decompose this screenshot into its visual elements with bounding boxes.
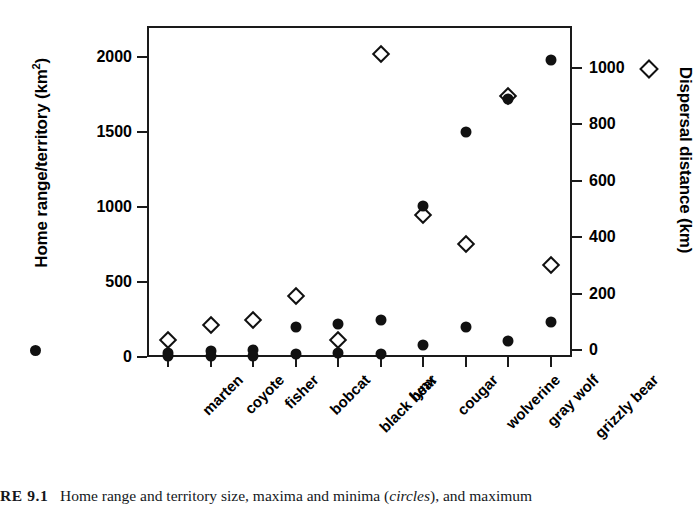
- y-axis-right-tick-label: 0: [589, 342, 659, 358]
- figure-caption: RE 9.1 Home range and territory size, ma…: [0, 487, 696, 505]
- data-point-circle-marten: [163, 351, 174, 362]
- y-axis-left-title-superscript: 2: [30, 63, 42, 69]
- y-axis-right-tick-label: 400: [589, 229, 659, 245]
- y-axis-left-tick-label: 0: [62, 349, 132, 365]
- data-point-circle-bobcat: [290, 322, 301, 333]
- y-axis-left-tick-label: 2000: [62, 49, 132, 65]
- data-point-circle-black-bear: [333, 319, 344, 330]
- x-axis-category-label-marten: marten: [199, 371, 246, 418]
- data-point-circle-gray-wolf: [503, 335, 514, 346]
- data-point-circle-lynx: [375, 349, 386, 360]
- x-axis-tick-mark: [550, 357, 552, 367]
- legend-circle-marker-icon: [30, 345, 41, 356]
- y-axis-right-tick-label: 600: [589, 173, 659, 189]
- y-axis-right-tick-mark: [572, 293, 582, 295]
- y-axis-right-tick-mark: [572, 180, 582, 182]
- data-point-circle-lynx: [375, 314, 386, 325]
- data-point-circle-wolverine: [460, 127, 471, 138]
- y-axis-left-tick-mark: [137, 131, 147, 133]
- figure-caption-text-part2: ), and maximum: [430, 487, 532, 504]
- data-point-circle-fisher: [248, 350, 259, 361]
- figure-caption-label: RE 9.1: [0, 487, 48, 504]
- plot-area: [147, 26, 572, 357]
- data-point-circle-wolverine: [460, 322, 471, 333]
- data-point-circle-grizzly-bear: [545, 55, 556, 66]
- y-axis-left-tick-label: 500: [62, 274, 132, 290]
- figure-caption-text-part1: Home range and territory size, maxima an…: [60, 487, 389, 504]
- y-axis-left-tick-mark: [137, 356, 147, 358]
- y-axis-right-tick-mark: [572, 67, 582, 69]
- y-axis-left-title: Home range/territory (km2): [30, 38, 52, 288]
- y-axis-left-tick-mark: [137, 206, 147, 208]
- data-point-circle-grizzly-bear: [545, 316, 556, 327]
- x-axis-tick-mark: [507, 357, 509, 367]
- y-axis-left-tick-label: 1000: [62, 199, 132, 215]
- x-axis-tick-mark: [465, 357, 467, 367]
- y-axis-right-tick-mark: [572, 236, 582, 238]
- figure-panel: Home range/territory (km2) Dispersal dis…: [0, 0, 696, 510]
- x-axis-category-label-bobcat: bobcat: [326, 371, 373, 418]
- y-axis-left-title-tail: ): [32, 58, 51, 63]
- y-axis-right-tick-mark: [572, 349, 582, 351]
- data-point-circle-cougar: [418, 340, 429, 351]
- data-point-circle-bobcat: [290, 349, 301, 360]
- x-axis-tick-mark: [422, 357, 424, 367]
- x-axis-category-label-fisher: fisher: [281, 371, 322, 412]
- y-axis-left-tick-mark: [137, 281, 147, 283]
- y-axis-left-tick-mark: [137, 56, 147, 58]
- y-axis-left-tick-label: 1500: [62, 124, 132, 140]
- y-axis-right-tick-label: 1000: [589, 60, 659, 76]
- y-axis-right-tick-mark: [572, 123, 582, 125]
- y-axis-right-title: Dispersal distance (km): [675, 35, 695, 285]
- data-point-circle-coyote: [205, 350, 216, 361]
- figure-caption-text-italic: circles: [389, 487, 430, 504]
- y-axis-right-tick-label: 800: [589, 116, 659, 132]
- y-axis-right-tick-label: 200: [589, 286, 659, 302]
- x-axis-category-label-cougar: cougar: [454, 371, 501, 418]
- y-axis-left-title-base: Home range/territory (km: [32, 69, 51, 267]
- x-axis-category-label-coyote: coyote: [241, 371, 287, 417]
- data-point-circle-black-bear: [333, 348, 344, 359]
